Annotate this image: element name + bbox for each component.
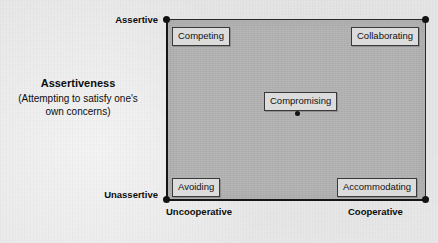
- grid-top-border: [167, 19, 426, 20]
- vertical-axis-line: [166, 20, 168, 201]
- diagram-page: Assertiveness (Attempting to satisfy one…: [0, 0, 438, 243]
- mode-label-compromising[interactable]: Compromising: [264, 92, 337, 111]
- assertiveness-description: (Attempting to satisfy one's own concern…: [8, 92, 148, 118]
- axis-label-cooperative: Cooperative: [348, 207, 403, 217]
- corner-dot-bottom-left: [163, 196, 170, 203]
- axis-label-assertive: Assertive: [96, 15, 158, 25]
- assertiveness-axis-block: Assertiveness (Attempting to satisfy one…: [8, 77, 148, 118]
- assertiveness-title: Assertiveness: [8, 77, 148, 91]
- corner-dot-top-left: [163, 16, 170, 23]
- horizontal-axis-line: [166, 199, 426, 201]
- corner-dot-bottom-right: [422, 196, 429, 203]
- grid-right-border: [425, 20, 426, 200]
- mode-label-collaborating[interactable]: Collaborating: [351, 27, 419, 46]
- mode-label-accommodating[interactable]: Accommodating: [337, 178, 417, 197]
- mode-label-competing[interactable]: Competing: [172, 27, 230, 46]
- axis-label-unassertive: Unassertive: [84, 190, 158, 200]
- compromising-center-dot: [295, 111, 300, 116]
- axis-label-uncooperative: Uncooperative: [166, 207, 232, 217]
- corner-dot-top-right: [422, 16, 429, 23]
- mode-label-avoiding[interactable]: Avoiding: [172, 178, 220, 197]
